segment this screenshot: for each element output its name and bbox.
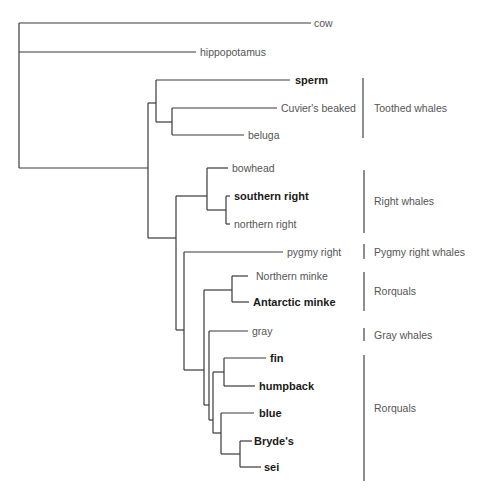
- group-label-pygmy-right-whales: Pygmy right whales: [374, 246, 465, 258]
- taxon-label-blue: blue: [259, 407, 282, 419]
- taxon-label-humpback: humpback: [259, 380, 315, 392]
- taxon-label-fin: fin: [270, 352, 284, 364]
- taxon-label-northern-right: northern right: [234, 218, 297, 230]
- taxon-label-gray: gray: [252, 325, 273, 337]
- taxon-label-southern-right: southern right: [234, 190, 309, 202]
- phylogenetic-tree: cow hippopotamus sperm Cuvier's beaked b…: [0, 0, 477, 493]
- group-label-gray-whales: Gray whales: [374, 329, 432, 341]
- group-label-rorquals-large: Rorquals: [374, 402, 416, 414]
- taxon-label-sperm: sperm: [295, 74, 328, 86]
- taxon-label-cow: cow: [314, 17, 333, 29]
- taxon-label-pygmy-right: pygmy right: [287, 246, 341, 258]
- taxon-label-antarctic-minke: Antarctic minke: [253, 296, 336, 308]
- group-label-right-whales: Right whales: [374, 195, 434, 207]
- taxon-label-sei: sei: [264, 461, 279, 473]
- tree-branches: [19, 23, 311, 467]
- taxon-label-bowhead: bowhead: [232, 162, 275, 174]
- group-label-toothed-whales: Toothed whales: [374, 102, 447, 114]
- group-label-rorquals-minke: Rorquals: [374, 285, 416, 297]
- taxon-labels: cow hippopotamus sperm Cuvier's beaked b…: [200, 17, 356, 473]
- taxon-label-northern-minke: Northern minke: [256, 270, 328, 282]
- taxon-label-beluga: beluga: [248, 129, 280, 141]
- group-brackets: Toothed whales Right whales Pygmy right …: [363, 78, 465, 481]
- taxon-label-hippopotamus: hippopotamus: [200, 46, 266, 58]
- taxon-label-brydes: Bryde's: [254, 435, 294, 447]
- taxon-label-cuviers: Cuvier's beaked: [281, 102, 356, 114]
